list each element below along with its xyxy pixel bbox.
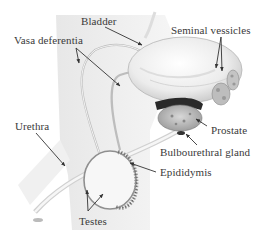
label-testes: Testes — [79, 215, 107, 227]
bulbourethral-gland-organ — [177, 131, 185, 135]
prostate-organ — [158, 105, 202, 131]
label-epididymis: Epididymis — [160, 166, 212, 178]
testis-organ — [84, 151, 136, 209]
label-bladder: Bladder — [81, 15, 117, 27]
label-seminal-vessicles: Seminal vessicles — [171, 24, 251, 36]
label-bulbourethral-gland: Bulbourethral gland — [160, 146, 250, 158]
label-vasa-deferentia: Vasa deferentia — [14, 34, 83, 46]
label-prostate: Prostate — [211, 124, 247, 136]
anatomy-diagram: Bladder Vasa deferentia Seminal vessicle… — [0, 0, 259, 247]
label-urethra: Urethra — [15, 120, 49, 132]
